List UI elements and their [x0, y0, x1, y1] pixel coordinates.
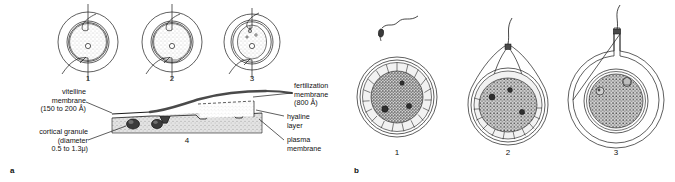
panel-b-stage-number-2: 2 [498, 148, 518, 157]
panel-b-stage-number-1: 1 [387, 148, 407, 157]
panel-a-stage-number-2: 2 [162, 74, 182, 83]
figure-root: vitelline membrane (150 to 200 Å) cortic… [0, 0, 675, 182]
panel-b-stage-1-diagram [357, 16, 437, 137]
panel-a-stage-number-3: 3 [242, 74, 262, 83]
callout-cortical-granule: cortical granule (diameter 0.5 to 1.3μ) [0, 128, 88, 154]
callout-vitelline-membrane: vitelline membrane (150 to 200 Å) [6, 88, 86, 114]
callout-plasma-membrane: plasma membrane [287, 136, 337, 153]
panel-a-stage-1-diagram [58, 4, 118, 80]
panel-a: vitelline membrane (150 to 200 Å) cortic… [0, 0, 340, 182]
panel-b-stage-number-3: 3 [606, 148, 626, 157]
panel-b-stage-3-diagram [568, 5, 664, 148]
panel-a-stage-number-1: 1 [78, 74, 98, 83]
panel-b-stage-2-diagram [468, 18, 548, 145]
panel-b: 1 2 3 b [340, 0, 675, 182]
sperm-icon [378, 16, 418, 41]
callout-hyaline-layer: hyaline layer [287, 113, 337, 130]
panel-a-letter: a [10, 166, 14, 175]
panel-b-letter: b [354, 166, 359, 175]
panel-a-stage-2-diagram [142, 4, 202, 80]
panel-a-stage-number-4: 4 [177, 136, 197, 145]
panel-a-stage-3-diagram [224, 8, 280, 78]
